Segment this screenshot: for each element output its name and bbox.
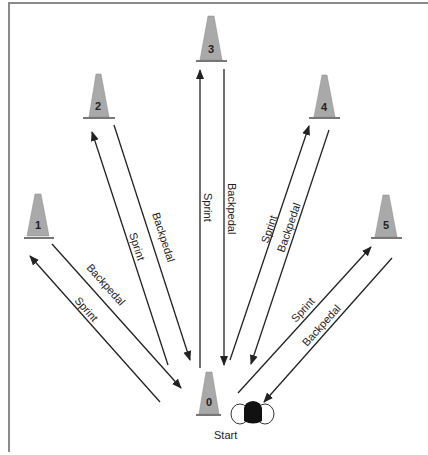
- backpedal-label-3: Backpedal: [226, 183, 238, 234]
- path-cone-5: Sprint Backpedal: [238, 247, 392, 402]
- sprint-arrow-2: [92, 132, 168, 365]
- cone-1: 1: [24, 194, 54, 238]
- start-label: Start: [214, 429, 237, 441]
- backpedal-label-1: Backpedal: [85, 261, 128, 307]
- sprint-label-5: Sprint: [289, 295, 317, 324]
- backpedal-arrow-2: [114, 125, 190, 360]
- cone-1-label: 1: [35, 219, 41, 231]
- cone-3: 3: [196, 16, 227, 61]
- sprint-label-4: Sprint: [259, 214, 280, 245]
- path-cone-2: Sprint Backpedal: [92, 125, 190, 365]
- cone-5-label: 5: [383, 219, 389, 231]
- cone-3-label: 3: [208, 43, 214, 55]
- cone-4: 4: [309, 75, 340, 118]
- sprint-label-2: Sprint: [127, 231, 147, 262]
- cone-2-label: 2: [95, 100, 101, 112]
- path-cone-3: Sprint Backpedal: [200, 69, 238, 368]
- sprint-label-3: Sprint: [202, 193, 214, 222]
- cone-4-label: 4: [321, 101, 328, 113]
- backpedal-label-4: Backpedal: [275, 201, 303, 253]
- path-cone-1: Sprint Backpedal: [30, 244, 181, 402]
- cone-0-label: 0: [206, 396, 212, 408]
- cone-5: 5: [371, 195, 402, 238]
- sprint-arrow-5: [238, 247, 371, 393]
- backpedal-arrow-1: [52, 244, 181, 388]
- cone-2: 2: [83, 74, 115, 118]
- backpedal-label-2: Backpedal: [150, 211, 177, 264]
- backpedal-arrow-5: [264, 258, 392, 402]
- cone-0: 0: [196, 372, 221, 415]
- runner-icon: [231, 401, 274, 424]
